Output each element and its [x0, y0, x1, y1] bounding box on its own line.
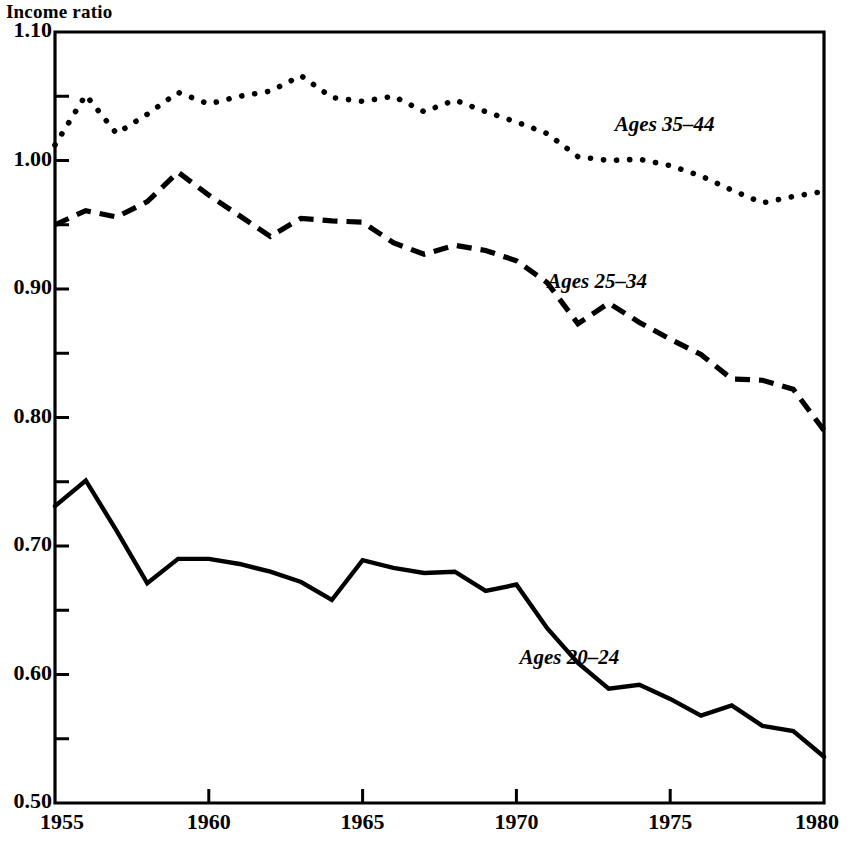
x-tick-label: 1980 [777, 809, 848, 835]
y-tick-label: 0.80 [0, 403, 52, 429]
x-tick-label: 1965 [323, 809, 403, 835]
plot-area [0, 0, 848, 849]
x-tick-label: 1975 [630, 809, 710, 835]
x-tick-label: 1970 [476, 809, 556, 835]
income-ratio-chart: Income ratio 0.500.600.700.800.901.001.1… [0, 0, 848, 849]
y-tick-label: 1.10 [0, 17, 52, 43]
series-line-ages-25-34 [55, 172, 824, 430]
x-tick-label: 1960 [169, 809, 249, 835]
y-tick-label: 0.60 [0, 660, 52, 686]
y-tick-label: 1.00 [0, 146, 52, 172]
x-tick-label: 1955 [22, 809, 102, 835]
series-label-ages-25-34: Ages 25–34 [547, 269, 647, 294]
y-tick-label: 0.90 [0, 274, 52, 300]
series-label-ages-20-24: Ages 20–24 [519, 645, 619, 670]
series-line-ages-35-44 [55, 76, 824, 203]
y-tick-label: 0.70 [0, 531, 52, 557]
plot-frame [55, 32, 824, 803]
data-series [55, 76, 824, 757]
series-label-ages-35-44: Ages 35–44 [615, 112, 715, 137]
series-line-ages-20-24 [55, 480, 824, 756]
plot-border [55, 32, 824, 803]
